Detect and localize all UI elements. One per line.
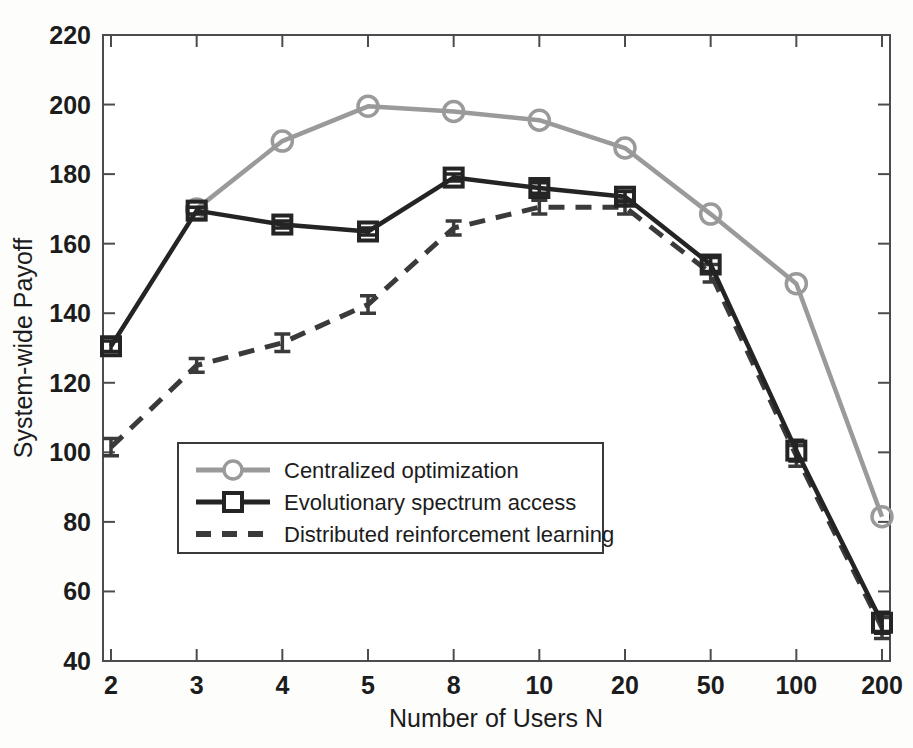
y-tick-label: 140 bbox=[49, 299, 91, 327]
x-tick-label: 50 bbox=[697, 671, 725, 699]
x-tick-label: 8 bbox=[447, 671, 461, 699]
legend-label: Centralized optimization bbox=[284, 458, 519, 483]
y-tick-label: 220 bbox=[49, 21, 91, 49]
legend-circle-marker-icon bbox=[224, 461, 242, 479]
y-tick-label: 200 bbox=[49, 91, 91, 119]
x-tick-label: 10 bbox=[525, 671, 553, 699]
legend-label: Distributed reinforcement learning bbox=[284, 522, 614, 547]
legend-label: Evolutionary spectrum access bbox=[284, 490, 576, 515]
x-tick-label: 4 bbox=[275, 671, 289, 699]
x-tick-label: 100 bbox=[775, 671, 817, 699]
y-tick-label: 120 bbox=[49, 369, 91, 397]
chart-legend[interactable]: Centralized optimizationEvolutionary spe… bbox=[178, 443, 614, 553]
x-axis-title: Number of Users N bbox=[389, 704, 603, 732]
y-tick-label: 100 bbox=[49, 438, 91, 466]
x-tick-label: 5 bbox=[361, 671, 375, 699]
y-tick-label: 80 bbox=[63, 508, 91, 536]
y-axis-title: System-wide Payoff bbox=[9, 238, 37, 459]
x-tick-label: 2 bbox=[104, 671, 118, 699]
y-tick-label: 160 bbox=[49, 230, 91, 258]
plot-background bbox=[103, 35, 890, 661]
x-tick-label: 200 bbox=[861, 671, 903, 699]
figure-container: 406080100120140160180200220 234581020501… bbox=[0, 0, 913, 748]
y-tick-label: 60 bbox=[63, 577, 91, 605]
y-tick-label: 40 bbox=[63, 647, 91, 675]
chart-canvas: 406080100120140160180200220 234581020501… bbox=[0, 0, 913, 748]
legend-square-marker-icon bbox=[224, 493, 242, 511]
axes-frame bbox=[103, 35, 890, 661]
x-tick-label: 20 bbox=[611, 671, 639, 699]
y-tick-label: 180 bbox=[49, 160, 91, 188]
x-tick-label: 3 bbox=[190, 671, 204, 699]
